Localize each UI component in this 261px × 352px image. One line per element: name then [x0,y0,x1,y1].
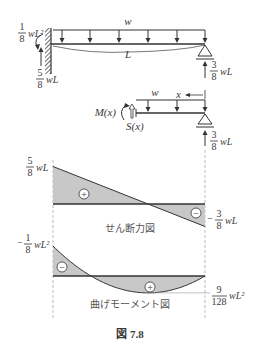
shear-negative-sign: − [191,208,201,219]
span-label: L [124,48,131,60]
right-reaction-label: 3 8 wL [210,59,233,82]
x-label: x [175,88,181,100]
load-arrow-head [117,38,122,43]
frac-den: 8 [217,220,222,231]
load-arrow-head [60,38,65,43]
fixed-wall [45,28,51,74]
beam-diagram: w L 1 8 wL² 5 8 wL 3 8 wL [18,15,233,90]
load-arrow-head [146,38,151,43]
fb-load-label: w [151,86,159,98]
frac-num: 3 [212,59,217,70]
fb-load-arrow-head [146,107,151,112]
frac-den: 8 [212,141,217,152]
moment-diagram-title: 曲げモーメント図 [90,299,170,310]
shear-label: S(x) [126,120,144,133]
minus-sign: − [193,208,199,219]
moment-arrowhead [124,103,130,108]
frac-num: 5 [38,67,43,78]
frac-expr: wL [46,74,59,85]
frac-num: 3 [212,129,217,140]
frac-den: 128 [212,296,227,307]
moment-label: M(x) [94,106,117,119]
frac-den: 8 [26,244,31,255]
fb-load-arrows [146,100,208,112]
frac-sign: − [207,213,213,224]
shear-left-label: 5 8 wL [26,155,49,178]
frac-expr: wL² [229,290,245,301]
plus-sign: + [147,282,153,293]
frac-expr: wL² [28,28,44,39]
frac-expr: wL [36,162,49,173]
left-reaction-arrowhead [39,47,44,52]
frac-num: 9 [217,284,222,295]
frac-num: 3 [217,208,222,219]
frac-num: 5 [28,155,33,166]
fb-load-arrow-head [175,107,180,112]
shear-arrow-icon [129,104,135,118]
fb-reaction-label: 3 8 wL [210,129,233,152]
shear-force-diagram: + − 5 8 wL − 3 8 wL せん断力図 [26,155,238,234]
load-label: w [124,15,132,27]
frac-den: 8 [28,167,33,178]
frac-sign: − [17,237,23,248]
moment-negative-sign: − [57,262,67,273]
fb-reaction-arrowhead [203,130,208,135]
moment-left-label: − 1 8 wL² [17,232,50,255]
bending-moment-diagram: − + − 1 8 wL² 9 128 wL² 曲げモーメント図 [17,232,245,310]
frac-expr: wL [220,136,233,147]
frac-den: 8 [212,71,217,82]
beam-figure: w L 1 8 wL² 5 8 wL 3 8 wL [0,0,261,352]
frac-expr: wL² [34,239,50,250]
figure-caption: 図 7.8 [116,327,144,340]
roller-support-icon [198,45,212,56]
frac-num: 1 [20,21,25,32]
x-dimension-arrowhead [185,93,190,97]
load-arrow-head [175,38,180,43]
right-reaction-arrowhead [203,61,208,66]
fb-roller-support-icon [198,114,212,124]
shear-diagram-title: せん断力図 [105,222,155,234]
moment-area [53,246,205,293]
frac-expr: wL [220,66,233,77]
minus-sign: − [59,262,65,273]
frac-den: 8 [38,79,43,90]
distributed-load-arrows [60,30,208,43]
fixed-moment-label: 1 8 wL² [18,21,44,44]
frac-den: 8 [20,33,25,44]
fb-load-arrow-head [203,107,208,112]
moment-max-label: 9 128 wL² [212,284,246,307]
shear-right-label: − 3 8 wL [207,208,237,231]
fixed-moment-arrowhead [35,44,40,50]
free-body-diagram: x w M(x) S(x) 3 8 wL [94,86,233,152]
frac-num: 1 [26,232,31,243]
frac-expr: wL [225,215,238,226]
load-arrow-head [203,38,208,43]
load-arrow-head [88,38,93,43]
plus-sign: + [81,189,87,200]
